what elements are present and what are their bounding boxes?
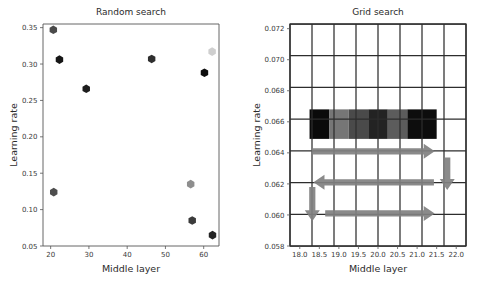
figure-container: Random search20304050600.050.100.150.200… [0,0,495,292]
random-search-xlabel: Middle layer [102,263,160,274]
grid-search-xtick-label: 19.0 [331,251,347,259]
grid-search-ytick-label: 0.062 [264,181,284,189]
grid-search-xtick-label: 19.5 [351,251,367,259]
figure-canvas: Random search20304050600.050.100.150.200… [0,0,495,292]
grid-search-ytick-label: 0.064 [264,149,285,157]
scatter-point [50,188,57,197]
random-search-ylabel: Learning rate [8,103,19,167]
grid-cell [349,109,369,138]
grid-cell [329,109,349,138]
scatter-point [188,216,195,225]
random-search-xtick-label: 60 [199,251,208,259]
scatter-point [148,55,155,64]
random-search-xtick-label: 40 [123,251,132,259]
arrow-left-middle [313,175,433,190]
grid-search-cells [310,109,437,138]
random-search-xtick-label: 30 [84,251,93,259]
grid-search-ytick-label: 0.068 [264,87,284,95]
grid-search-xtick-label: 21.0 [409,251,425,259]
grid-search-xtick-label: 18.0 [292,251,308,259]
random-search-xtick-label: 20 [46,251,55,259]
random-search-ytick-label: 0.30 [22,61,38,69]
random-search-ytick-label: 0.05 [22,243,38,251]
grid-search-ytick-label: 0.060 [264,212,284,220]
random-search-xtick-label: 50 [161,251,170,259]
grid-search-xtick-label: 20.0 [370,251,386,259]
random-search-ytick-label: 0.20 [22,133,38,141]
arrow-down-left [305,187,320,221]
grid-search-xtick-label: 20.5 [390,251,406,259]
scatter-point [208,47,215,56]
arrow-down-right [440,158,455,191]
scatter-point [187,180,194,189]
scatter-point [201,68,208,77]
grid-search-ytick-label: 0.066 [264,118,285,126]
grid-search-xtick-label: 22.0 [448,251,464,259]
grid-search-ylabel: Learning rate [251,103,262,167]
grid-search-ytick-label: 0.070 [264,56,284,64]
random-search-ytick-label: 0.35 [22,24,38,32]
random-search-title: Random search [96,7,166,17]
grid-search-xtick-label: 18.5 [312,251,328,259]
grid-search-xtick-label: 21.5 [429,251,445,259]
grid-search-ytick-label: 0.072 [264,25,284,33]
grid-search-title: Grid search [352,7,404,17]
random-search-ytick-label: 0.10 [22,206,38,214]
scatter-point [209,231,216,240]
arrow-right-bottom [325,206,435,221]
random-search-ytick-label: 0.25 [22,97,38,105]
grid-cell [388,109,408,138]
panel-grid-search: Grid search18.018.519.019.520.020.521.02… [251,7,466,274]
arrow-right-top [312,144,435,159]
grid-search-xlabel: Middle layer [349,263,407,274]
scatter-point [50,26,57,35]
panel-random-search: Random search20304050600.050.100.150.200… [8,7,219,274]
scatter-point [56,55,63,64]
grid-search-arrows [305,144,455,221]
random-search-axes-spines [43,24,219,246]
grid-search-ytick-label: 0.058 [264,243,284,251]
scatter-point [83,84,90,93]
random-search-ytick-label: 0.15 [22,170,38,178]
random-search-axes-frame [43,24,219,246]
